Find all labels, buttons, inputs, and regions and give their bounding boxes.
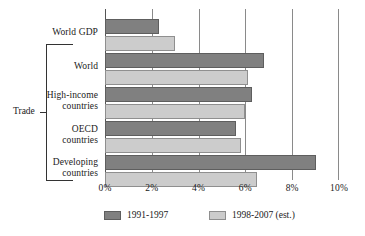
x-tick-label-8: 8%	[286, 183, 299, 193]
x-tick-label-6: 6%	[239, 183, 252, 193]
bar-series1-world-gdp	[105, 19, 159, 34]
x-tick-label-4: 4%	[192, 183, 205, 193]
bar-series1-high-income-countries	[105, 87, 252, 102]
trade-bracket-bottom-arm	[46, 180, 73, 181]
legend-item-series-2: 1998-2007 (est.)	[209, 210, 295, 220]
bar-series2-high-income-countries	[105, 104, 245, 119]
bar-series1-developing-countries	[105, 155, 316, 170]
x-tick-label-2: 2%	[145, 183, 158, 193]
legend-label-series-1: 1991-1997	[127, 210, 168, 220]
category-label-high-income-countries: High-income countries	[47, 90, 98, 111]
trade-bracket-top-arm	[46, 44, 73, 45]
bar-series1-oecd-countries	[105, 121, 236, 136]
legend-item-series-1: 1991-1997	[104, 210, 168, 220]
legend-label-series-2: 1998-2007 (est.)	[232, 210, 295, 220]
bar-series2-world	[105, 70, 248, 85]
bar-series1-world	[105, 53, 264, 68]
bar-series2-world-gdp	[105, 36, 175, 51]
gridline-10	[338, 9, 339, 180]
x-tick-label-0: 0%	[98, 183, 111, 193]
category-label-oecd-countries: OECD countries	[62, 124, 98, 145]
series-2-swatch-icon	[209, 211, 226, 220]
category-label-world-gdp: World GDP	[52, 27, 98, 38]
category-label-world: World	[74, 61, 98, 72]
series-1-swatch-icon	[104, 211, 121, 220]
category-label-developing-countries: Developing countries	[53, 157, 98, 178]
chart-legend: 1991-1997 1998-2007 (est.)	[0, 207, 365, 227]
bar-series2-oecd-countries	[105, 138, 241, 153]
x-tick-label-10: 10%	[330, 183, 348, 193]
plot-area	[105, 9, 339, 180]
trade-bracket-label: Trade	[13, 106, 35, 116]
bar-chart: 0% 2% 4% 6% 8% 10% World GDP World High-…	[0, 0, 365, 236]
trade-bracket-tick	[40, 112, 46, 113]
trade-bracket-spine	[46, 44, 47, 180]
bar-series2-developing-countries	[105, 172, 257, 187]
